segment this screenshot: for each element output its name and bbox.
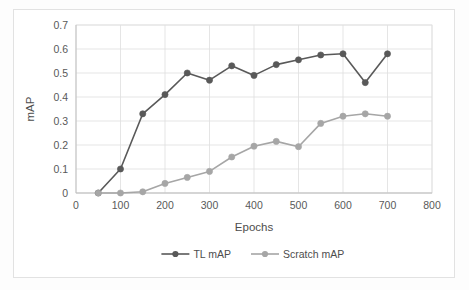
data-point-marker [184, 70, 190, 76]
x-tick-label: 100 [112, 199, 130, 211]
line-chart: 00.10.20.30.40.50.60.7 01002003004005006… [14, 10, 454, 277]
data-point-marker [162, 180, 168, 186]
data-point-marker [362, 80, 368, 86]
y-axis-title: mAP [24, 96, 36, 121]
y-tick-label: 0.3 [53, 115, 68, 127]
y-tick-label: 0.1 [53, 163, 68, 175]
data-point-marker [384, 51, 390, 57]
legend-marker-swatch [262, 251, 268, 257]
series-line [98, 114, 387, 193]
chart-figure: 00.10.20.30.40.50.60.7 01002003004005006… [0, 0, 469, 290]
data-point-marker [273, 62, 279, 68]
series-tl-map [95, 51, 390, 196]
data-point-marker [295, 144, 301, 150]
y-tick-label: 0.6 [53, 43, 68, 55]
data-point-marker [206, 77, 212, 83]
data-point-marker [318, 120, 324, 126]
legend-label: Scratch mAP [283, 248, 344, 260]
data-point-marker [117, 166, 123, 172]
x-tick-label: 0 [73, 199, 79, 211]
data-point-marker [162, 92, 168, 98]
data-point-marker [184, 174, 190, 180]
data-point-marker [362, 111, 368, 117]
x-tick-label: 400 [245, 199, 263, 211]
x-tick-label: 500 [290, 199, 308, 211]
data-point-marker [229, 154, 235, 160]
legend-item[interactable]: Scratch mAP [251, 248, 344, 260]
x-tick-label: 200 [156, 199, 174, 211]
data-point-marker [318, 52, 324, 58]
data-point-marker [117, 190, 123, 196]
data-point-marker [140, 189, 146, 195]
data-point-marker [206, 168, 212, 174]
chart-frame: 00.10.20.30.40.50.60.7 01002003004005006… [13, 9, 455, 278]
y-tick-label: 0.2 [53, 139, 68, 151]
data-point-marker [95, 190, 101, 196]
data-point-marker [295, 57, 301, 63]
x-tick-label: 600 [334, 199, 352, 211]
vertical-gridlines [121, 25, 433, 193]
data-point-marker [140, 111, 146, 117]
data-point-marker [273, 138, 279, 144]
data-point-marker [251, 143, 257, 149]
data-point-marker [229, 63, 235, 69]
x-tick-label: 700 [379, 199, 397, 211]
data-point-marker [340, 51, 346, 57]
series-line [98, 54, 387, 193]
x-axis-tick-labels: 0100200300400500600700800 [73, 199, 441, 211]
legend-label: TL mAP [193, 248, 231, 260]
chart-legend: TL mAPScratch mAP [161, 248, 344, 260]
y-tick-label: 0 [62, 187, 68, 199]
y-tick-label: 0.4 [53, 91, 68, 103]
y-axis-tick-labels: 00.10.20.30.40.50.60.7 [53, 19, 68, 199]
x-tick-label: 300 [201, 199, 219, 211]
x-axis-title: Epochs [235, 221, 274, 233]
legend-item[interactable]: TL mAP [161, 248, 231, 260]
x-tick-label: 800 [423, 199, 441, 211]
data-point-marker [251, 72, 257, 78]
data-point-marker [384, 113, 390, 119]
data-point-marker [340, 113, 346, 119]
data-series-layer [95, 51, 390, 196]
y-tick-label: 0.5 [53, 67, 68, 79]
legend-marker-swatch [172, 251, 178, 257]
y-tick-label: 0.7 [53, 19, 68, 31]
